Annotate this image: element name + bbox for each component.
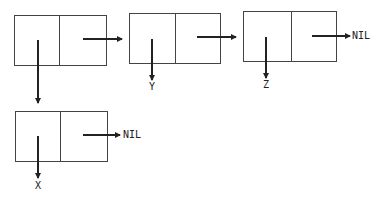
list-diagram (0, 0, 381, 199)
label-x: X (35, 181, 41, 191)
label-z: Z (263, 80, 269, 90)
cons-cell-1 (15, 16, 107, 66)
cons-cell-4 (16, 112, 108, 162)
label-nil-bottom: NIL (123, 130, 141, 140)
label-nil-top: NIL (352, 31, 370, 41)
label-y: Y (149, 82, 155, 92)
cons-cell-2 (130, 14, 221, 64)
